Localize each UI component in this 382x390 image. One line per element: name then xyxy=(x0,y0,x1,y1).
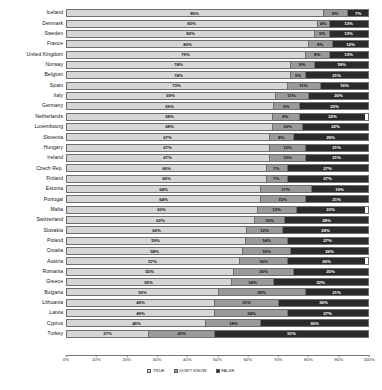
bar-segment-don-t-know: 10% xyxy=(272,124,302,130)
chart-row: Finland66%7%27% xyxy=(0,174,382,184)
segment-value-label: 16% xyxy=(262,249,271,254)
legend-swatch-icon xyxy=(174,369,178,373)
category-label: Cyprus xyxy=(0,321,66,327)
segment-value-label: 5% xyxy=(319,31,325,36)
category-label: United Kingdom xyxy=(0,52,66,58)
chart-row: Spain73%11%16% xyxy=(0,80,382,90)
stacked-bar: 49%21%30% xyxy=(66,299,369,307)
stacked-bar: 50%29%21% xyxy=(66,288,369,296)
bar-segment-false: 36% xyxy=(260,320,368,326)
bar-segment-don-t-know: 22% xyxy=(148,331,214,337)
category-label: Germany xyxy=(0,103,66,109)
segment-value-label: 7% xyxy=(274,166,280,171)
category-label: Finland xyxy=(0,176,66,182)
bar-segment-false: 21% xyxy=(305,72,368,78)
category-label: Hungary xyxy=(0,145,66,151)
bar-segment-don-t-know: 5% xyxy=(314,31,329,37)
segment-value-label: 82% xyxy=(186,31,195,36)
segment-value-label: 21% xyxy=(332,145,341,150)
category-label: Austria xyxy=(0,259,66,265)
stacked-bar: 64%17%19% xyxy=(66,185,369,193)
chart-row: Slovakia60%12%29% xyxy=(0,225,382,235)
segment-value-label: 79% xyxy=(182,52,191,57)
stacked-bar: 74%8%18% xyxy=(66,61,369,69)
bar-segment-false: 27% xyxy=(287,165,368,171)
segment-value-label: 21% xyxy=(242,300,251,305)
segment-value-label: 8% xyxy=(332,11,338,16)
bar-segment-don-t-know: 11% xyxy=(287,83,320,89)
segment-value-label: 12% xyxy=(346,42,355,47)
legend-item: DON'T KNOW xyxy=(174,368,207,373)
segment-value-label: 30% xyxy=(319,300,328,305)
bar-segment-don-t-know: 16% xyxy=(239,258,287,264)
bar-segment-false: 30% xyxy=(278,300,368,306)
bar-segment-false: 13% xyxy=(329,21,368,27)
segment-value-label: 51% xyxy=(287,331,296,336)
category-label: Czech Rep. xyxy=(0,166,66,172)
bar-segment-don-t-know: 8% xyxy=(305,52,329,58)
bar-segment-true: 67% xyxy=(67,134,269,140)
bar-segment-false: 23% xyxy=(299,103,368,109)
category-label: Sweden xyxy=(0,31,66,37)
segment-value-label: 14% xyxy=(262,238,271,243)
x-axis-tick-label: 20% xyxy=(122,357,131,363)
segment-value-label: 20% xyxy=(259,269,268,274)
stacked-bar: 80%8%12% xyxy=(66,40,369,48)
category-label: Malta xyxy=(0,207,66,213)
bar-segment-true: 68% xyxy=(67,124,272,130)
x-axis-tick-label: 50% xyxy=(213,357,222,363)
bar-segment-true: 62% xyxy=(67,217,254,223)
segment-value-label: 59% xyxy=(151,238,160,243)
bar-segment-false: 22% xyxy=(299,114,365,120)
bar-segment-don-t-know: 9% xyxy=(272,114,299,120)
x-axis-tick-labels: 0%10%20%30%40%50%60%70%80%90%100% xyxy=(66,357,369,367)
bar-segment-don-t-know: 12% xyxy=(246,227,282,233)
bar-segment-false: 32% xyxy=(273,279,368,285)
category-label: Denmark xyxy=(0,21,66,27)
segment-value-label: 8% xyxy=(317,42,323,47)
stacked-bar: 79%8%13% xyxy=(66,51,369,59)
bar-segment-don-t-know: 17% xyxy=(260,186,311,192)
bar-segment-true: 27% xyxy=(67,331,148,337)
bar-segment-false: 7% xyxy=(347,10,368,16)
segment-value-label: 23% xyxy=(330,104,339,109)
category-label: Bulgaria xyxy=(0,290,66,296)
bar-segment-true: 46% xyxy=(67,320,205,326)
segment-value-label: 27% xyxy=(323,166,332,171)
segment-value-label: 67% xyxy=(163,145,172,150)
bar-segment-false: 25% xyxy=(293,134,368,140)
segment-value-label: 85% xyxy=(191,11,200,16)
stacked-bar: 58%16%26% xyxy=(66,247,369,255)
segment-value-label: 26% xyxy=(325,249,334,254)
segment-value-label: 22% xyxy=(331,125,340,130)
category-label: France xyxy=(0,41,66,47)
stacked-bar: 82%5%13% xyxy=(66,30,369,38)
segment-value-label: 10% xyxy=(283,125,292,130)
bar-segment-true: 49% xyxy=(67,310,214,316)
segment-value-label: 9% xyxy=(283,104,289,109)
segment-value-label: 8% xyxy=(299,62,305,67)
category-label: Spain xyxy=(0,83,66,89)
stacked-bar: 83%4%13% xyxy=(66,20,369,28)
bar-segment-false: 26% xyxy=(287,258,365,264)
segment-value-label: 21% xyxy=(333,73,342,78)
bar-segment-false: 20% xyxy=(308,93,368,99)
bar-segment-true: 50% xyxy=(67,289,218,295)
segment-value-label: 13% xyxy=(272,207,281,212)
stacked-bar: 68%10%22% xyxy=(66,123,369,131)
bar-segment-don-t-know: 14% xyxy=(231,279,273,285)
category-label: Poland xyxy=(0,238,66,244)
chart-row: Latvia49%24%27% xyxy=(0,308,382,318)
segment-value-label: 74% xyxy=(174,62,183,67)
segment-value-label: 20% xyxy=(334,93,343,98)
bar-segment-false: 13% xyxy=(329,52,368,58)
bar-segment-don-t-know: 4% xyxy=(317,21,329,27)
chart-row: Malta63%13%23% xyxy=(0,205,382,215)
segment-value-label: 8% xyxy=(314,52,320,57)
stacked-bar: 57%16%26% xyxy=(66,257,369,265)
bar-segment-don-t-know: 8% xyxy=(290,62,314,68)
segment-value-label: 5% xyxy=(295,73,301,78)
chart-row: United Kingdom79%8%13% xyxy=(0,49,382,59)
plot-area: Iceland85%8%7%Denmark83%4%13%Sweden82%5%… xyxy=(0,8,382,339)
category-label: Estonia xyxy=(0,186,66,192)
